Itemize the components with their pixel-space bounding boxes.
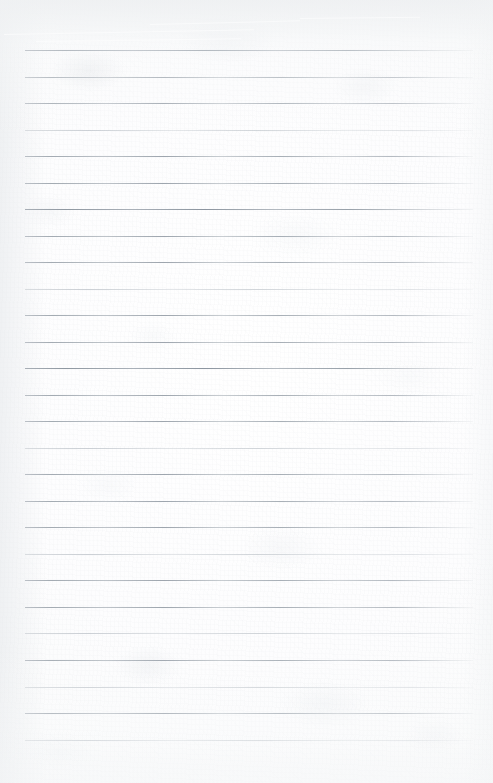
writing-area[interactable]	[25, 50, 473, 750]
scanned-paper-page	[0, 0, 493, 783]
